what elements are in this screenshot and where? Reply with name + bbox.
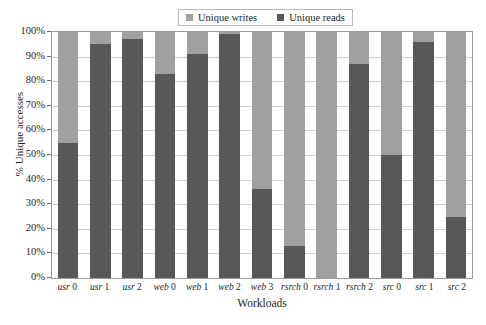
bar-slot: [278, 32, 310, 278]
bar-segment-unique-reads: [219, 34, 240, 278]
y-tick-label: 0%: [3, 271, 45, 282]
y-tick-label: 40%: [3, 173, 45, 184]
x-tick-label: src 2: [441, 281, 473, 297]
x-tick-label: rsrch 2: [343, 281, 375, 297]
legend-swatch-unique-reads: [277, 14, 284, 21]
bar-segment-unique-writes: [284, 32, 305, 246]
bar-segment-unique-writes: [187, 32, 208, 54]
stacked-bar[interactable]: [90, 32, 111, 278]
bar-segment-unique-reads: [284, 246, 305, 278]
bar-series-group: [52, 32, 472, 278]
chart-legend: Unique writes Unique reads: [178, 9, 353, 26]
bar-slot: [214, 32, 246, 278]
y-tick-label: 90%: [3, 50, 45, 61]
x-tick-label: rsrch 0: [278, 281, 310, 297]
bar-segment-unique-reads: [252, 189, 273, 278]
bar-slot: [84, 32, 116, 278]
y-tick-label: 70%: [3, 99, 45, 110]
bar-segment-unique-reads: [381, 155, 402, 278]
y-tick-label: 50%: [3, 148, 45, 159]
bar-segment-unique-reads: [446, 217, 467, 279]
y-tick-label: 30%: [3, 197, 45, 208]
x-tick-label: web 2: [213, 281, 245, 297]
x-tick-label: usr 1: [83, 281, 115, 297]
bar-segment-unique-writes: [316, 32, 337, 278]
stacked-bar[interactable]: [122, 32, 143, 278]
bar-segment-unique-writes: [155, 32, 176, 74]
legend-label-unique-writes: Unique writes: [198, 12, 257, 23]
y-tick-label: 100%: [3, 25, 45, 36]
bar-slot: [149, 32, 181, 278]
bar-slot: [343, 32, 375, 278]
stacked-bar[interactable]: [284, 32, 305, 278]
legend-entry-unique-reads: Unique reads: [277, 12, 345, 23]
bar-slot: [246, 32, 278, 278]
bar-segment-unique-writes: [349, 32, 370, 64]
bar-segment-unique-writes: [413, 32, 434, 42]
legend-label-unique-reads: Unique reads: [289, 12, 345, 23]
bar-slot: [117, 32, 149, 278]
stacked-bar[interactable]: [349, 32, 370, 278]
bar-segment-unique-writes: [58, 32, 79, 143]
stacked-bar[interactable]: [446, 32, 467, 278]
x-tick-label: web 3: [246, 281, 278, 297]
y-tick-label: 20%: [3, 222, 45, 233]
x-tick-label: rsrch 1: [311, 281, 343, 297]
legend-swatch-unique-writes: [186, 14, 193, 21]
bar-segment-unique-reads: [413, 42, 434, 278]
x-tick-label: src 0: [376, 281, 408, 297]
stacked-bar[interactable]: [413, 32, 434, 278]
x-tick-label: usr 2: [116, 281, 148, 297]
x-tick-label: usr 0: [51, 281, 83, 297]
bar-segment-unique-writes: [252, 32, 273, 189]
bar-segment-unique-writes: [90, 32, 111, 44]
y-tick-label: 10%: [3, 246, 45, 257]
bar-segment-unique-reads: [122, 39, 143, 278]
bar-slot: [375, 32, 407, 278]
x-axis-ticks: usr 0usr 1usr 2web 0web 1web 2web 3rsrch…: [51, 281, 473, 297]
plot-area: [51, 31, 473, 279]
chart-figure: Unique writes Unique reads % Unique acce…: [0, 0, 486, 325]
stacked-bar[interactable]: [316, 32, 337, 278]
stacked-bar[interactable]: [155, 32, 176, 278]
y-tick-label: 80%: [3, 74, 45, 85]
bar-slot: [52, 32, 84, 278]
legend-entry-unique-writes: Unique writes: [186, 12, 257, 23]
x-tick-label: web 0: [148, 281, 180, 297]
bar-segment-unique-writes: [446, 32, 467, 217]
bar-segment-unique-reads: [58, 143, 79, 278]
bar-segment-unique-reads: [90, 44, 111, 278]
stacked-bar[interactable]: [381, 32, 402, 278]
x-tick-label: src 1: [408, 281, 440, 297]
bar-segment-unique-reads: [349, 64, 370, 278]
bar-slot: [407, 32, 439, 278]
bar-segment-unique-reads: [155, 74, 176, 278]
stacked-bar[interactable]: [252, 32, 273, 278]
x-axis-title: Workloads: [51, 297, 473, 310]
stacked-bar[interactable]: [58, 32, 79, 278]
bar-slot: [440, 32, 472, 278]
bar-segment-unique-writes: [381, 32, 402, 155]
stacked-bar[interactable]: [187, 32, 208, 278]
y-tick-label: 60%: [3, 123, 45, 134]
x-tick-label: web 1: [181, 281, 213, 297]
bar-slot: [311, 32, 343, 278]
bar-segment-unique-writes: [122, 32, 143, 39]
stacked-bar[interactable]: [219, 32, 240, 278]
bar-segment-unique-reads: [187, 54, 208, 278]
bar-slot: [181, 32, 213, 278]
